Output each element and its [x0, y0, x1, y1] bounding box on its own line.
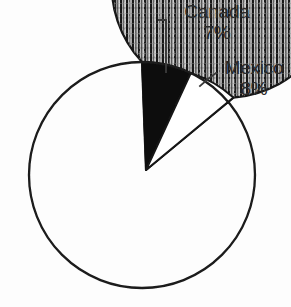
slice-label-canada-percent: 7% — [178, 22, 256, 43]
pie-chart-canvas — [0, 0, 291, 307]
slice-label-canada-name: Canada — [184, 1, 249, 22]
slice-label-mexico-percent: 8% — [216, 78, 291, 99]
slice-label-mexico-name: Mexico — [225, 57, 284, 78]
slice-label-canada: Canada 7% — [178, 1, 256, 43]
slice-label-mexico: Mexico 8% — [216, 57, 291, 99]
slice-label-united-states: es — [0, 254, 24, 275]
pie-chart-figure: Canada 7% Mexico 8% es — [0, 0, 291, 307]
